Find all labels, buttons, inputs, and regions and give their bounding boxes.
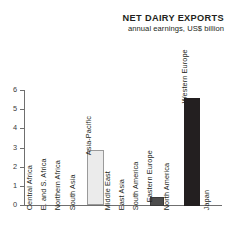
y-axis-tick-label-1: 1 — [3, 182, 17, 189]
y-axis-tick-label-3: 3 — [3, 144, 17, 151]
category-label-e-and-s-africa: E. and S. Africa — [40, 158, 47, 210]
bar-western-europe[interactable] — [184, 98, 200, 206]
y-axis-tick-4 — [20, 128, 25, 129]
category-label-asia-pacific: Asia-Pacific — [85, 116, 92, 155]
category-label-north-america: North America — [163, 163, 170, 211]
category-label-south-america: South America — [132, 162, 139, 211]
category-label-northern-africa: Northern Africa — [54, 160, 61, 210]
y-axis-tick-label-4: 4 — [3, 124, 17, 131]
category-label-western-europe: Western Europe — [181, 49, 188, 103]
y-axis-tick-3 — [20, 148, 25, 149]
category-label-south-asia: South Asia — [69, 174, 76, 210]
category-label-middle-east: Middle East — [104, 171, 111, 210]
category-label-japan: Japan — [203, 190, 210, 210]
y-axis-tick-label-6: 6 — [3, 86, 17, 93]
y-axis-tick-label-5: 5 — [3, 105, 17, 112]
y-axis-tick-label-0: 0 — [3, 201, 17, 208]
category-label-central-africa: Central Africa — [26, 165, 33, 210]
y-axis-tick-label-2: 2 — [3, 163, 17, 170]
y-axis-tick-5 — [20, 109, 25, 110]
net-dairy-exports-chart: NET DAIRY EXPORTS annual earnings, US$ b… — [0, 0, 234, 226]
plot-area: 6 5 4 3 2 1 0 Central Africa E. and S. A… — [0, 0, 234, 226]
category-label-eastern-europe: Eastern Europe — [146, 150, 153, 202]
category-label-east-asia: East Asia — [118, 179, 125, 210]
bar-asia-pacific[interactable] — [87, 150, 104, 205]
y-axis-tick-6 — [20, 90, 25, 91]
